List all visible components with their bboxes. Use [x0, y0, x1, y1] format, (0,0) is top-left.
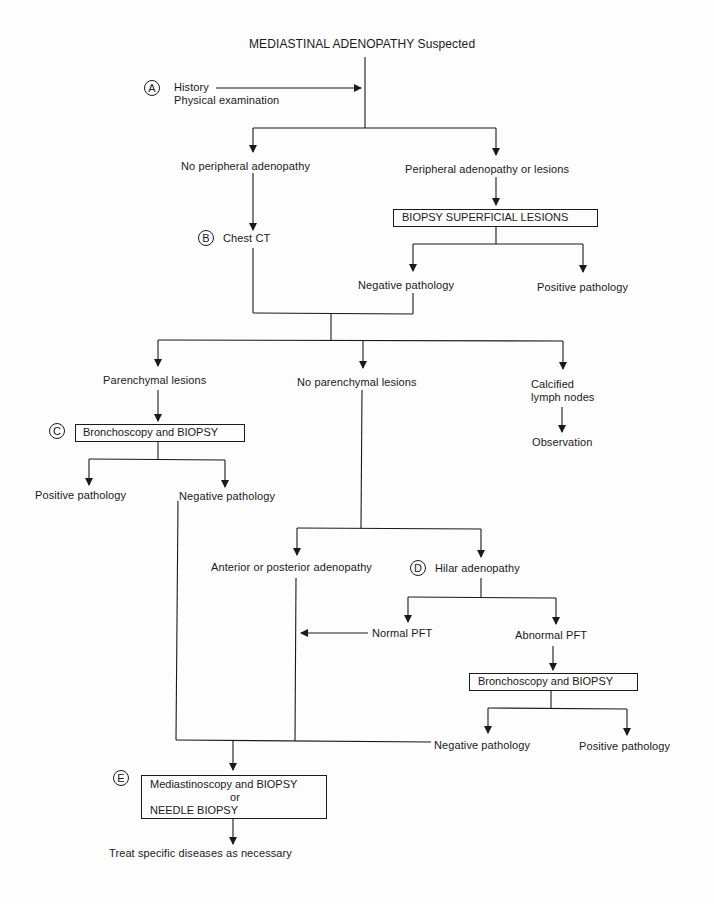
- marker-e-icon: E: [113, 770, 129, 786]
- marker-b-icon: B: [198, 230, 214, 246]
- node-no-parenchymal-lesions: No parenchymal lesions: [297, 376, 417, 389]
- box-e-line-2: or: [150, 791, 320, 804]
- marker-c-icon: C: [49, 423, 65, 439]
- node-negative-pathology-3: Negative pathology: [434, 739, 530, 752]
- node-observation: Observation: [532, 436, 592, 449]
- node-normal-pft: Normal PFT: [372, 627, 432, 640]
- marker-a-icon: A: [144, 80, 160, 96]
- box-bronchoscopy-biopsy-2: Bronchoscopy and BIOPSY: [469, 673, 638, 691]
- box-e-line-1: Mediastinoscopy and BIOPSY: [150, 778, 326, 791]
- node-abnormal-pft: Abnormal PFT: [515, 629, 587, 642]
- flowchart-canvas: MEDIASTINAL ADENOPATHY Suspected A Histo…: [0, 0, 714, 904]
- node-hilar-adenopathy: Hilar adenopathy: [435, 562, 520, 575]
- box-mediastinoscopy-needle-biopsy: Mediastinoscopy and BIOPSY or NEEDLE BIO…: [141, 775, 327, 819]
- node-no-peripheral-adenopathy: No peripheral adenopathy: [181, 160, 310, 173]
- node-positive-pathology-2: Positive pathology: [35, 489, 126, 502]
- node-lymph-nodes: lymph nodes: [531, 391, 594, 404]
- node-positive-pathology-3: Positive pathology: [579, 740, 670, 753]
- node-anterior-posterior-adenopathy: Anterior or posterior adenopathy: [211, 561, 372, 574]
- box-bronchoscopy-biopsy-1: Bronchoscopy and BIOPSY: [75, 424, 245, 442]
- node-calcified: Calcified: [531, 378, 574, 391]
- node-parenchymal-lesions: Parenchymal lesions: [103, 374, 206, 387]
- node-chest-ct: Chest CT: [223, 232, 270, 245]
- node-peripheral-adenopathy: Peripheral adenopathy or lesions: [405, 163, 569, 176]
- box-biopsy-superficial-lesions: BIOPSY SUPERFICIAL LESIONS: [393, 209, 598, 227]
- node-treat-specific-diseases: Treat specific diseases as necessary: [109, 847, 292, 860]
- box-e-line-3: NEEDLE BIOPSY: [150, 804, 326, 817]
- node-positive-pathology-1: Positive pathology: [537, 281, 628, 294]
- node-history: History: [174, 81, 209, 94]
- title-mediastinal-adenopathy: MEDIASTINAL ADENOPATHY Suspected: [249, 38, 475, 51]
- connector-lines: [0, 0, 714, 904]
- node-negative-pathology-2: Negative pathology: [179, 490, 275, 503]
- node-negative-pathology-1: Negative pathology: [358, 279, 454, 292]
- node-physical-exam: Physical examination: [174, 94, 279, 107]
- marker-d-icon: D: [410, 560, 426, 576]
